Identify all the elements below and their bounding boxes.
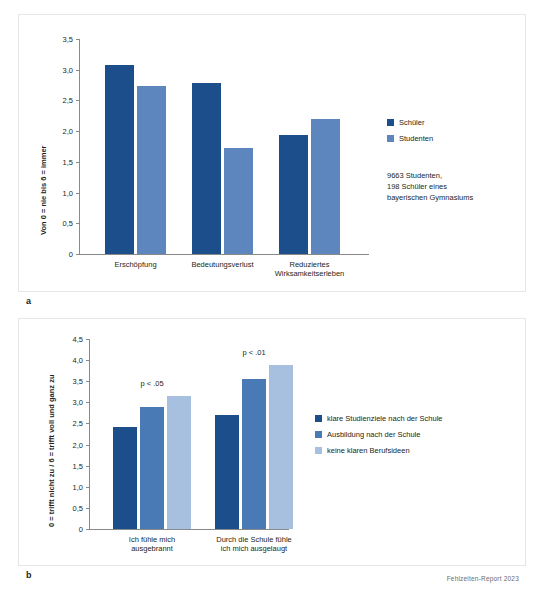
y-axis-tick [86, 466, 89, 467]
y-axis-tick [76, 100, 79, 101]
legend-label: Ausbildung nach der Schule [327, 430, 420, 439]
legend-b: klare Studienziele nach der SchuleAusbil… [315, 414, 443, 462]
panel-letter-b: b [26, 570, 32, 580]
bar [113, 427, 137, 529]
y-axis-tick-label: 3,0 [45, 65, 73, 74]
bar [215, 415, 239, 529]
legend-swatch-icon [315, 431, 322, 438]
bar [167, 396, 191, 529]
y-axis-tick-label: 3,0 [55, 398, 83, 407]
legend-a: SchülerStudenten [387, 118, 433, 150]
panel-letter-a: a [26, 296, 31, 306]
y-axis-tick [86, 529, 89, 530]
y-axis-tick-label: 0 [45, 250, 73, 259]
legend-item: keine klaren Berufsideen [315, 446, 443, 455]
bar [140, 407, 164, 529]
y-axis-tick-label: 0,5 [55, 503, 83, 512]
y-axis-tick-label: 3,5 [55, 377, 83, 386]
y-axis-tick-label: 1,5 [45, 157, 73, 166]
y-axis-tick-label: 3,5 [45, 35, 73, 44]
y-axis-label: Von 0 = nie bis 6 = immer [39, 146, 48, 235]
y-axis-tick-label: 2,0 [55, 440, 83, 449]
y-axis-tick-label: 0,5 [45, 219, 73, 228]
y-axis-tick-label: 0 [55, 525, 83, 534]
y-axis-tick-label: 1,0 [45, 188, 73, 197]
legend-item: Studenten [387, 134, 433, 143]
x-axis-tick-label: Reduziertes Wirksamkeitserleben [250, 260, 370, 279]
bar [224, 148, 253, 254]
y-axis-tick [76, 193, 79, 194]
legend-swatch-icon [387, 135, 394, 142]
y-axis-tick [86, 339, 89, 340]
legend-swatch-icon [315, 415, 322, 422]
y-axis-tick-label: 4,0 [55, 356, 83, 365]
y-axis-line [89, 339, 90, 529]
x-axis-line [89, 529, 289, 530]
legend-swatch-icon [315, 447, 322, 454]
legend-label: Schüler [399, 118, 424, 127]
bar [242, 379, 266, 529]
legend-item: klare Studienziele nach der Schule [315, 414, 443, 423]
legend-item: Ausbildung nach der Schule [315, 430, 443, 439]
y-axis-tick [86, 445, 89, 446]
plot-area-b: 00,51,01,52,02,53,03,54,04,50 = trifft n… [89, 339, 289, 529]
y-axis-tick-label: 2,5 [45, 96, 73, 105]
significance-annotation: p < .01 [214, 348, 294, 357]
y-axis-line [79, 39, 80, 254]
plot-area-a: 00,51,01,52,02,53,03,5Von 0 = nie bis 6 … [79, 39, 369, 254]
legend-item: Schüler [387, 118, 433, 127]
y-axis-tick [76, 223, 79, 224]
y-axis-tick [86, 360, 89, 361]
y-axis-tick [76, 70, 79, 71]
y-axis-tick-label: 1,0 [55, 482, 83, 491]
y-axis-tick [86, 487, 89, 488]
legend-label: klare Studienziele nach der Schule [327, 414, 443, 423]
sample-size-note: 9663 Studenten, 198 Schüler eines bayeri… [387, 171, 473, 204]
x-axis-line [79, 254, 369, 255]
source-caption: Fehlzeiten-Report 2023 [447, 575, 519, 582]
y-axis-tick-label: 2,5 [55, 419, 83, 428]
y-axis-tick [76, 162, 79, 163]
legend-label: keine klaren Berufsideen [327, 446, 410, 455]
y-axis-tick-label: 1,5 [55, 461, 83, 470]
y-axis-label: 0 = trifft nicht zu / 6 = trifft voll un… [47, 374, 56, 527]
y-axis-tick-label: 2,0 [45, 127, 73, 136]
x-axis-tick-label: Durch die Schule fühle ich mich ausgelau… [194, 535, 314, 554]
bar [311, 119, 340, 254]
chart-panel-b: 00,51,01,52,02,53,03,54,04,50 = trifft n… [18, 318, 526, 566]
y-axis-tick-label: 4,5 [55, 335, 83, 344]
bar [192, 83, 221, 254]
y-axis-tick [86, 381, 89, 382]
legend-swatch-icon [387, 119, 394, 126]
y-axis-tick [76, 254, 79, 255]
bar [269, 365, 293, 529]
bar [105, 65, 134, 254]
significance-annotation: p < .05 [112, 379, 192, 388]
y-axis-tick [86, 423, 89, 424]
legend-label: Studenten [399, 134, 433, 143]
y-axis-tick [86, 402, 89, 403]
bar [279, 135, 308, 254]
chart-panel-a: 00,51,01,52,02,53,03,5Von 0 = nie bis 6 … [18, 14, 526, 292]
y-axis-tick [86, 508, 89, 509]
y-axis-tick [76, 39, 79, 40]
y-axis-tick [76, 131, 79, 132]
bar [137, 86, 166, 254]
